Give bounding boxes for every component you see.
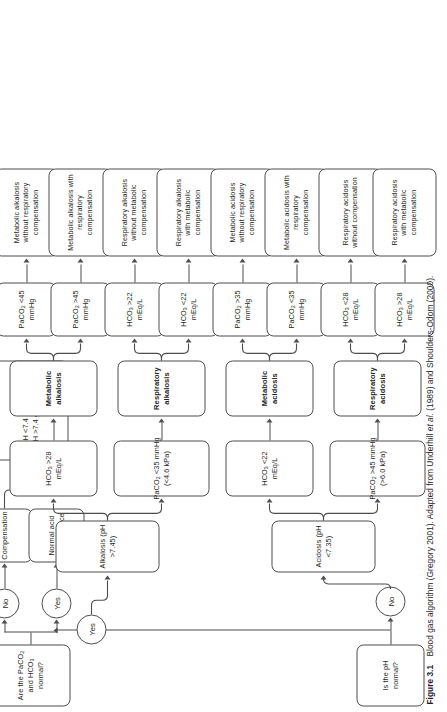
- connector-node-out-ma-without: [26, 264, 27, 282]
- node-ph-yes-label: Yes: [87, 623, 96, 635]
- node-out-mac-without-label: Metabolic acidosis without respiratory c…: [228, 172, 256, 252]
- arrowhead-node-metabolic-alkalosis: [50, 418, 56, 422]
- connector-start-spine: [57, 629, 390, 630]
- figure-caption-part-b: (1989) and Shoulders-Odom (2000).: [424, 275, 434, 412]
- arrowhead-node-rac-hco3-gt28: [401, 338, 407, 342]
- arrowhead-node-mac-paco2-gt35: [239, 338, 245, 342]
- arrowhead-gas-no: [1, 619, 7, 623]
- node-mac-paco2-lt35-label: PaCO2 <35 mmHg: [286, 286, 306, 332]
- arrowhead-acidosis-in: [320, 575, 326, 579]
- node-acid-hco3-low: HCO3 <22 mEq/L: [225, 440, 313, 496]
- node-gases-normal-label: Are the PaCO2 and HCO3 normal?: [15, 648, 45, 702]
- arrowhead-node-rac-hco3-lt28: [347, 338, 353, 342]
- figure-number: Figure 3.1: [424, 664, 434, 704]
- node-out-rac-with-label: Respiratory acidosis with metabolic comp…: [390, 172, 418, 252]
- connector-gases-yes: [56, 622, 57, 632]
- node-mac-paco2-gt35-label: PaCO2 >35 mmHg: [232, 286, 252, 332]
- arrowhead-node-out-ma-without: [23, 258, 29, 262]
- connector-node-out-mac-with: [296, 264, 297, 282]
- node-alkalosis: Alkalosis (pH >7.45): [55, 520, 159, 572]
- node-compensation: Compensation: [0, 508, 32, 562]
- node-mac-paco2-lt35: PaCO2 <35 mmHg: [266, 282, 326, 336]
- figure-caption-italic: et al.: [424, 413, 434, 431]
- node-gas-no-label: No: [0, 598, 9, 608]
- node-ra-hco3-gt22-label: HCO3 >22 mEq/L: [124, 286, 144, 332]
- node-ma-paco2-gt45: PaCO2 >45 mmHg: [50, 282, 110, 336]
- node-out-ma-without-label: Metabolic alkalosis without respiratory …: [12, 172, 40, 252]
- arrowhead-node-ra-hco3-gt22: [131, 338, 137, 342]
- node-out-ra-with-label: Respiratory alkalosis with metabolic com…: [174, 172, 202, 252]
- figure-caption: Figure 3.1 Blood gas algorithm (Gregory …: [424, 4, 435, 704]
- arrowhead-compensation: [1, 563, 7, 567]
- node-alk-hco3-high-label: HCO3 >28 mEq/L: [43, 444, 63, 492]
- node-alkalosis-label: Alkalosis (pH >7.45): [97, 524, 116, 568]
- connector-node-out-ma-with: [80, 264, 81, 282]
- node-rac-hco3-lt28-label: HCO3 <28 mEq/L: [340, 286, 360, 332]
- arrowhead-node-ma-paco2-gt45: [77, 338, 83, 342]
- connector-node-out-ra-without: [134, 264, 135, 282]
- arrowhead-alk-hco3: [50, 498, 56, 502]
- node-acid-paco2-high-line-1: PaCO2 >45 mmHg: [367, 437, 377, 499]
- node-ra-hco3-lt22: HCO3 <22 mEq/L: [158, 282, 218, 336]
- arrowhead-node-ma-paco2-lt45: [23, 338, 29, 342]
- arrowhead-node-metabolic-acidosis: [266, 418, 272, 422]
- node-alk-paco2-low-line-1: PaCO2 <35 mmHg: [151, 437, 161, 499]
- node-gases-normal: Are the PaCO2 and HCO3 normal?: [0, 644, 70, 706]
- node-acid-hco3-low-label: HCO3 <22 mEq/L: [259, 444, 279, 492]
- connector-start-out: [390, 630, 391, 644]
- node-out-ma-with-label: Metabolic alkalosis with respiratory com…: [66, 172, 94, 252]
- node-out-rac-without-label: Respiratory acidosis without compensatio…: [341, 172, 360, 252]
- node-mac-paco2-gt35: PaCO2 >35 mmHg: [212, 282, 272, 336]
- connector-to-node-respiratory-alkalosis: [161, 422, 162, 440]
- flowchart-canvas: Is the pH normal?NoYesAre the PaCO2 and …: [0, 0, 447, 712]
- node-respiratory-acidosis-label: Respiratory acidosis: [367, 364, 387, 412]
- arrowhead-node-respiratory-acidosis: [374, 418, 380, 422]
- node-respiratory-acidosis: Respiratory acidosis: [333, 360, 421, 416]
- arrowhead-node-out-mac-with: [293, 258, 299, 262]
- node-alk-paco2-low-line-2: (<4.6 kPa): [161, 451, 171, 486]
- node-rac-hco3-lt28: HCO3 <28 mEq/L: [320, 282, 380, 336]
- node-acidosis-label: Acidosis (pH <7.35): [313, 524, 332, 568]
- arrowhead-node-respiratory-alkalosis: [158, 418, 164, 422]
- node-metabolic-acidosis: Metabolic acidosis: [225, 360, 313, 416]
- node-ph-no-label: No: [386, 596, 395, 606]
- connector-to-node-respiratory-acidosis: [377, 422, 378, 440]
- node-start-label: Is the pH normal?: [380, 648, 399, 702]
- node-ma-paco2-lt45-label: PaCO2 <45 mmHg: [16, 286, 36, 332]
- arrowhead-node-out-ra-with: [185, 258, 191, 262]
- arrowhead-node-out-ma-with: [77, 258, 83, 262]
- figure-page: Is the pH normal?NoYesAre the PaCO2 and …: [0, 0, 447, 712]
- node-metabolic-alkalosis: Metabolic alkalosis: [9, 360, 97, 416]
- connector-gases-out: [30, 632, 31, 644]
- connector-acid-to-paco2: [317, 497, 383, 526]
- connector-node-out-rac-without: [350, 264, 351, 282]
- arrowhead-alkalosis-in: [104, 575, 110, 579]
- node-ma-paco2-gt45-label: PaCO2 >45 mmHg: [70, 286, 90, 332]
- node-start: Is the pH normal?: [356, 644, 424, 706]
- connector-node-out-rac-with: [404, 264, 405, 282]
- node-out-ra-without-label: Respiratory alkalosis without metabolic …: [120, 172, 148, 252]
- node-acid-paco2-high-line-2: (>6.0 kPa): [377, 451, 387, 486]
- node-compensation-label: Compensation: [0, 511, 9, 559]
- arrowhead-node-ra-hco3-lt22: [185, 338, 191, 342]
- node-ra-hco3-gt22: HCO3 >22 mEq/L: [104, 282, 164, 336]
- node-respiratory-alkalosis: Respiratory alkalosis: [117, 360, 205, 416]
- connector-no-to-acidosis: [317, 574, 396, 592]
- connector-node-out-ra-with: [188, 264, 189, 282]
- arrowhead-node-out-rac-with: [401, 258, 407, 262]
- connector-gases-no: [4, 622, 5, 632]
- node-gas-yes-label: Yes: [52, 597, 61, 609]
- connector-yes-to-alkalosis: [85, 574, 113, 620]
- arrowhead-acid-hco3: [266, 498, 272, 502]
- connector-to-node-metabolic-acidosis: [269, 422, 270, 440]
- arrowhead-node-out-rac-without: [347, 258, 353, 262]
- connector-start-to-no: [390, 620, 391, 630]
- figure-caption-part-a: Blood gas algorithm (Gregory 2001). Adap…: [424, 431, 434, 665]
- connector-gases-fork: [4, 631, 56, 632]
- node-metabolic-alkalosis-label: Metabolic alkalosis: [43, 364, 63, 412]
- arrowhead-node-mac-paco2-lt35: [293, 338, 299, 342]
- node-ra-hco3-lt22-label: HCO3 <22 mEq/L: [178, 286, 198, 332]
- node-ma-paco2-lt45: PaCO2 <45 mmHg: [0, 282, 56, 336]
- arrowhead-gas-yes: [53, 619, 59, 623]
- node-acid-paco2-high: PaCO2 >45 mmHg(>6.0 kPa): [329, 440, 425, 496]
